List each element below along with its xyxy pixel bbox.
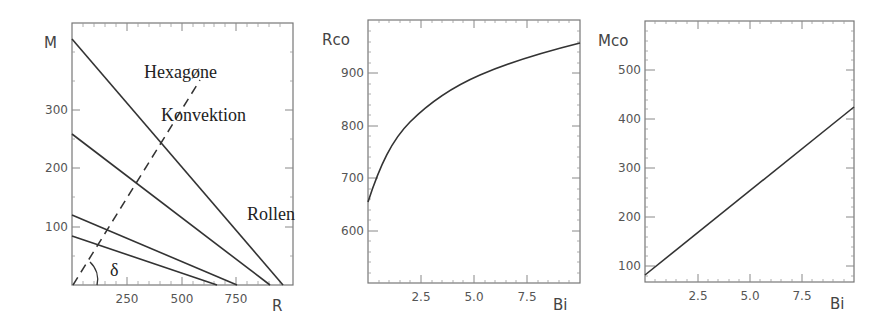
p3-ytick: 200 — [618, 210, 641, 224]
label-konvektion: Konvektion — [161, 105, 246, 125]
label-hexagone: Hexagøne — [144, 62, 217, 82]
p2-ytick: 800 — [341, 119, 364, 133]
p3-xlabel: Bi — [830, 295, 844, 313]
p1-ytick: 300 — [45, 103, 68, 117]
p3-ytick: 400 — [618, 112, 641, 126]
p1-xtick: 750 — [225, 292, 248, 306]
p1-xlabel: R — [272, 297, 282, 315]
p3-xtick: 2.5 — [688, 289, 707, 303]
p1-xtick: 500 — [171, 292, 194, 306]
mco-line — [645, 107, 854, 275]
figure: 300 200 100 250 500 750 M R Hexagøne Kon… — [0, 0, 894, 331]
boundary-line-4-bold — [72, 236, 217, 285]
p3-xtick: 7.5 — [792, 289, 811, 303]
plot-m-vs-r: 300 200 100 250 500 750 M R Hexagøne Kon… — [44, 23, 295, 315]
p1-ylabel: M — [44, 34, 57, 52]
p2-ytick: 600 — [341, 224, 364, 238]
p3-xtick: 5.0 — [740, 289, 759, 303]
label-delta: δ — [110, 260, 118, 280]
p2-ytick: 900 — [341, 66, 364, 80]
boundary-line-2 — [72, 134, 270, 285]
p3-ytick: 500 — [618, 63, 641, 77]
label-rollen: Rollen — [247, 204, 295, 224]
rco-curve — [368, 43, 580, 202]
p2-xtick: 7.5 — [517, 290, 536, 304]
p2-xtick: 2.5 — [411, 290, 430, 304]
p2-ylabel: Rco — [322, 31, 350, 49]
p3-ylabel: Mco — [598, 32, 628, 50]
plot-mco-vs-bi: 500 400 300 200 100 2.5 5.0 7.5 Mco Bi — [598, 21, 854, 313]
p1-ytick: 100 — [45, 220, 68, 234]
p2-xtick: 5.0 — [464, 290, 483, 304]
p2-xlabel: Bi — [553, 296, 567, 314]
plot-rco-vs-bi: 900 800 700 600 2.5 5.0 7.5 Rco Bi — [322, 20, 580, 314]
p2-ytick: 700 — [341, 171, 364, 185]
plot3-frame — [645, 21, 854, 282]
p3-ytick: 100 — [618, 259, 641, 273]
p3-ytick: 300 — [618, 161, 641, 175]
plot2-frame — [368, 20, 580, 283]
p1-ytick: 200 — [45, 161, 68, 175]
p1-xtick: 250 — [116, 292, 139, 306]
